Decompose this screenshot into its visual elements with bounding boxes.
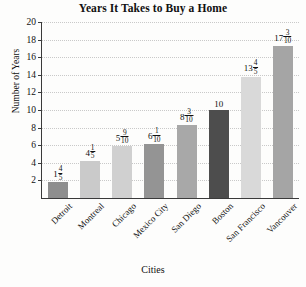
bar-value-label: 5910 bbox=[116, 129, 129, 145]
gridline bbox=[42, 22, 299, 23]
bar-value-label: 1345 bbox=[244, 59, 258, 75]
bar-value-label: 10 bbox=[214, 100, 223, 109]
y-tick-mark bbox=[38, 92, 42, 93]
bar-chart: Years It Takes to Buy a Home Number of Y… bbox=[0, 0, 306, 287]
bar-value-label: 415 bbox=[85, 144, 94, 160]
bar: 6110 bbox=[144, 144, 164, 198]
bar: 415 bbox=[80, 161, 100, 198]
y-axis-title: Number of Years bbox=[11, 21, 21, 141]
y-tick-mark bbox=[38, 145, 42, 146]
y-tick-label: 20 bbox=[27, 17, 37, 27]
y-tick-label: 6 bbox=[31, 140, 36, 150]
bar: 5910 bbox=[112, 146, 132, 198]
y-tick-mark bbox=[38, 22, 42, 23]
y-tick-mark bbox=[38, 40, 42, 41]
bar: 1345 bbox=[241, 77, 261, 198]
y-tick-label: 8 bbox=[31, 123, 36, 133]
plot-area: 2468101214161820 14541559106110831010134… bbox=[41, 22, 299, 199]
y-tick-label: 18 bbox=[27, 35, 37, 45]
y-tick-label: 14 bbox=[27, 70, 37, 80]
bar-value-label: 8310 bbox=[180, 108, 193, 124]
y-tick-mark bbox=[38, 75, 42, 76]
bar: 10 bbox=[209, 110, 229, 198]
gridline bbox=[42, 57, 299, 58]
bar: 8310 bbox=[177, 125, 197, 198]
y-tick-mark bbox=[38, 163, 42, 164]
y-tick-mark bbox=[38, 110, 42, 111]
bar-value-label: 17310 bbox=[274, 29, 292, 45]
y-tick-label: 10 bbox=[27, 105, 37, 115]
bar-value-label: 6110 bbox=[148, 127, 161, 143]
bar: 145 bbox=[48, 182, 68, 198]
x-axis-title: Cities bbox=[0, 264, 306, 275]
bar: 17310 bbox=[273, 46, 293, 198]
y-tick-label: 4 bbox=[31, 158, 36, 168]
y-tick-mark bbox=[38, 57, 42, 58]
y-tick-label: 16 bbox=[27, 52, 37, 62]
y-tick-label: 12 bbox=[27, 87, 37, 97]
bar-value-label: 145 bbox=[53, 165, 62, 181]
y-tick-mark bbox=[38, 180, 42, 181]
chart-title: Years It Takes to Buy a Home bbox=[0, 2, 306, 14]
y-tick-label: 2 bbox=[31, 175, 36, 185]
y-tick-mark bbox=[38, 128, 42, 129]
gridline bbox=[42, 40, 299, 41]
